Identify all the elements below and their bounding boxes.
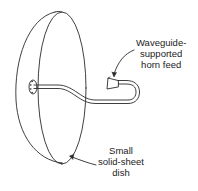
bolt-icon [30, 89, 31, 90]
dish-arrowhead-icon [70, 155, 75, 160]
dish-back-rim [16, 12, 62, 163]
horn-feed-label-line: Waveguide- [136, 37, 186, 48]
dish-rim-top-join [55, 11, 62, 12]
waveguide-upper-edge [34, 84, 136, 100]
bolt-icon [32, 92, 33, 93]
bolt-icon [32, 81, 33, 82]
dish-label-line: Small [98, 145, 144, 156]
bolt-icon [30, 85, 31, 86]
dish-front-face [38, 12, 86, 164]
dish-label-line: dish [98, 167, 144, 178]
horn-feed-label-line: supported [136, 48, 186, 59]
horn-feed-label: Waveguide- supported horn feed [136, 37, 186, 70]
horn-feed-icon [107, 78, 118, 89]
dish-label: Small solid-sheet dish [98, 145, 144, 178]
antenna-diagram: Waveguide- supported horn feed Small sol… [0, 0, 198, 191]
horn-feed-label-line: horn feed [136, 59, 186, 70]
feed-arrowhead-icon [112, 72, 117, 77]
dish-leader-line [72, 157, 96, 165]
mount-plate-icon [29, 80, 37, 94]
feed-leader-line [114, 50, 134, 74]
dish-label-line: solid-sheet [98, 156, 144, 167]
dish-rim-bottom-join [61, 163, 62, 164]
